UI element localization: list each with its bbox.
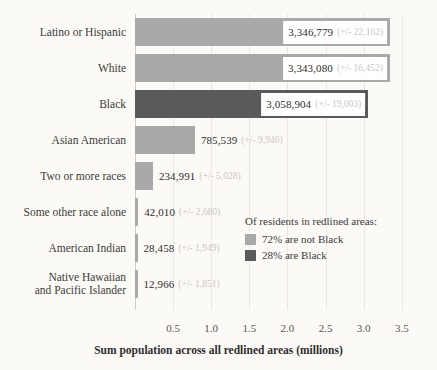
bar-value-number: 3,058,904 bbox=[266, 98, 311, 110]
category-label: Two or more races bbox=[0, 158, 126, 194]
bar-value-number: 12,966 bbox=[144, 278, 175, 290]
x-tick-label: 1.5 bbox=[242, 322, 256, 334]
bar-value-label: 3,346,779(+/- 22,162) bbox=[283, 21, 387, 44]
category-label: Black bbox=[0, 86, 126, 122]
bar-row: Native Hawaiian and Pacific Islander12,9… bbox=[135, 266, 411, 302]
bar-row: White3,343,080(+/- 16,452) bbox=[135, 50, 411, 86]
bar-value-label: 28,458(+/- 1,949) bbox=[138, 238, 220, 258]
legend-swatch-dark bbox=[245, 250, 256, 261]
bar-value-label: 12,966(+/- 1,851) bbox=[138, 274, 220, 294]
bar bbox=[135, 162, 153, 190]
bar-value-label: 42,010(+/- 2,680) bbox=[138, 202, 220, 222]
bar-value-number: 3,343,080 bbox=[288, 62, 333, 74]
x-tick-label: 2.5 bbox=[319, 322, 333, 334]
bar-margin-of-error: (+/- 1,851) bbox=[178, 279, 219, 289]
legend-label-not-black: 72% are not Black bbox=[262, 233, 344, 245]
category-label: Latino or Hispanic bbox=[0, 14, 126, 50]
x-axis-ticks: 0.51.01.52.02.53.03.5 bbox=[135, 322, 411, 338]
bar-value-number: 785,539 bbox=[201, 134, 237, 146]
x-tick-label: 0.5 bbox=[166, 322, 180, 334]
x-tick-label: 2.0 bbox=[281, 322, 295, 334]
bar-chart: Latino or Hispanic3,346,779(+/- 22,162)W… bbox=[0, 0, 437, 370]
x-tick-label: 3.0 bbox=[357, 322, 371, 334]
plot-area: Latino or Hispanic3,346,779(+/- 22,162)W… bbox=[135, 14, 411, 310]
legend-item-black: 28% are Black bbox=[245, 249, 435, 261]
bar-margin-of-error: (+/- 19,003) bbox=[315, 99, 361, 109]
bar-value-number: 42,010 bbox=[144, 206, 175, 218]
bar-value-number: 3,346,779 bbox=[288, 26, 333, 38]
category-label: American Indian bbox=[0, 230, 126, 266]
bar-margin-of-error: (+/- 16,452) bbox=[337, 63, 383, 73]
legend-swatch-light bbox=[245, 234, 256, 245]
chart-legend: Of residents in redlined areas: 72% are … bbox=[245, 215, 435, 265]
bar-row: Two or more races234,991(+/- 5,028) bbox=[135, 158, 411, 194]
x-tick-label: 1.0 bbox=[204, 322, 218, 334]
legend-label-black: 28% are Black bbox=[262, 249, 327, 261]
bar-margin-of-error: (+/- 1,949) bbox=[178, 243, 219, 253]
bar-margin-of-error: (+/- 2,680) bbox=[179, 207, 220, 217]
legend-title: Of residents in redlined areas: bbox=[245, 215, 435, 227]
bar-row: Latino or Hispanic3,346,779(+/- 22,162) bbox=[135, 14, 411, 50]
bar-value-number: 234,991 bbox=[159, 170, 195, 182]
category-label: White bbox=[0, 50, 126, 86]
bar-value-label: 3,343,080(+/- 16,452) bbox=[283, 57, 387, 80]
bar-margin-of-error: (+/- 22,162) bbox=[337, 27, 383, 37]
bar-value-label: 785,539(+/- 9,946) bbox=[195, 130, 283, 150]
bar-row: Black3,058,904(+/- 19,003) bbox=[135, 86, 411, 122]
bar-value-number: 28,458 bbox=[144, 242, 175, 254]
category-label: Some other race alone bbox=[0, 194, 126, 230]
bar-value-label: 3,058,904(+/- 19,003) bbox=[261, 93, 365, 116]
category-label: Native Hawaiian and Pacific Islander bbox=[0, 266, 126, 302]
category-label: Asian American bbox=[0, 122, 126, 158]
bar-margin-of-error: (+/- 9,946) bbox=[241, 135, 282, 145]
legend-item-not-black: 72% are not Black bbox=[245, 233, 435, 245]
bar-value-label: 234,991(+/- 5,028) bbox=[153, 166, 241, 186]
x-tick-label: 3.5 bbox=[395, 322, 409, 334]
x-axis-title: Sum population across all redlined areas… bbox=[0, 344, 437, 356]
bar-row: Asian American785,539(+/- 9,946) bbox=[135, 122, 411, 158]
bar-margin-of-error: (+/- 5,028) bbox=[199, 171, 240, 181]
bar bbox=[135, 126, 195, 154]
